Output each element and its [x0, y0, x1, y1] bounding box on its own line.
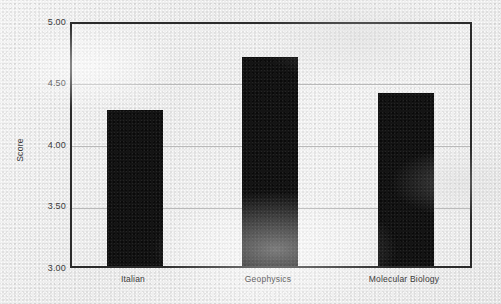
- plot-area: [70, 22, 472, 268]
- y-tick-label-2: 3.50: [26, 201, 66, 211]
- bar-geophysics: [242, 57, 298, 266]
- y-axis: Score 5.00 4.50 4.00 3.50 3.00: [22, 0, 66, 304]
- y-tick-label-5: 5.00: [26, 17, 66, 27]
- bar-molecular-biology: [378, 93, 434, 266]
- x-tick-label-geophysics: Geophysics: [245, 274, 291, 284]
- y-tick-label-1: 3.00: [26, 263, 66, 273]
- chart-page: Score 5.00 4.50 4.00 3.50 3.00 Italian G…: [0, 0, 501, 304]
- y-tick-label-4: 4.50: [26, 78, 66, 88]
- x-tick-label-italian: Italian: [121, 274, 145, 284]
- bar-italian: [107, 110, 163, 266]
- y-axis-title: Score: [15, 138, 25, 162]
- y-tick-label-3: 4.00: [26, 140, 66, 150]
- x-tick-label-molecular-biology: Molecular Biology: [369, 274, 440, 284]
